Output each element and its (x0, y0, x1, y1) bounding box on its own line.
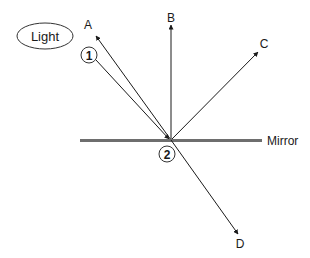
ray-c (171, 52, 258, 140)
mirror-label: Mirror (267, 134, 298, 148)
ray-a-label: A (84, 18, 92, 32)
ray-a (96, 36, 171, 140)
ray-d-label: D (236, 237, 245, 251)
reflection-diagram: Light 1 A B C Mirror D 2 (0, 0, 310, 258)
ray-c-label: C (260, 37, 269, 51)
light-label: Light (31, 29, 60, 44)
ray-b-label: B (167, 11, 175, 25)
marker-1-label: 1 (86, 49, 93, 63)
light-source: Light (17, 23, 73, 49)
marker-2: 2 (159, 146, 175, 162)
ray-d (171, 140, 238, 234)
marker-1: 1 (81, 47, 97, 63)
marker-2-label: 2 (164, 148, 171, 162)
incident-ray (96, 60, 169, 139)
